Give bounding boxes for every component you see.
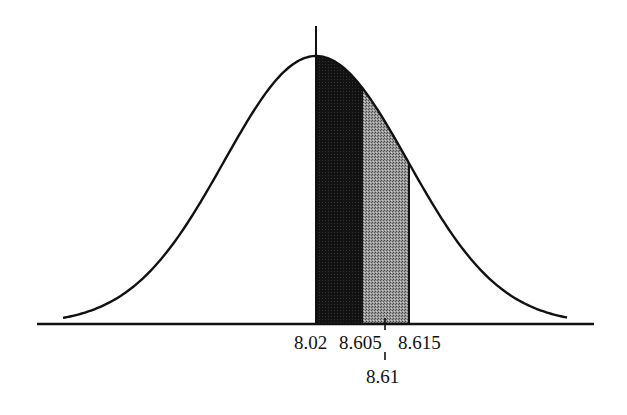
label-8-615: 8.615 <box>398 332 441 354</box>
label-8-605: 8.605 <box>339 332 382 354</box>
dark-region <box>316 40 363 324</box>
label-8-61: 8.61 <box>366 366 399 388</box>
label-8-02: 8.02 <box>294 332 327 354</box>
gray-region <box>363 40 409 324</box>
